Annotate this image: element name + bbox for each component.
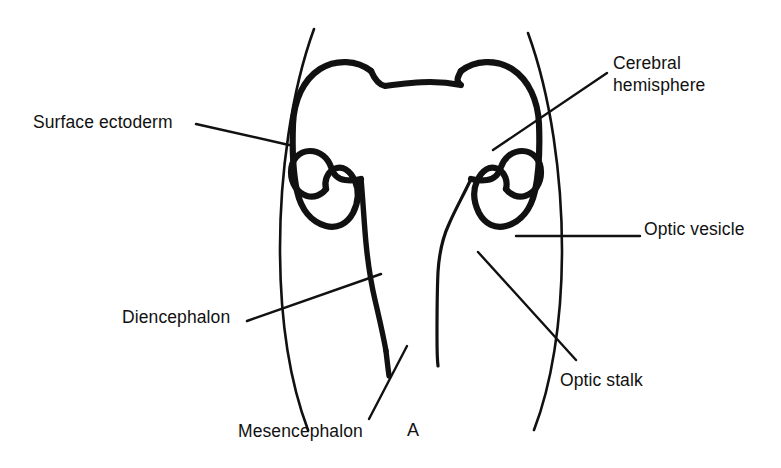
diencephalon-right-wall	[437, 179, 471, 366]
label-mesencephalon: Mesencephalon	[238, 420, 363, 442]
mesencephalon-left-wall	[386, 351, 389, 376]
leader-surface-ectoderm	[196, 124, 289, 145]
diencephalon-left-wall	[361, 179, 386, 351]
label-diencephalon: Diencephalon	[122, 306, 230, 328]
label-surface-ectoderm: Surface ectoderm	[33, 111, 173, 133]
label-cerebral-hemisphere-line2: hemisphere	[613, 75, 705, 95]
embryonic-brain-figure: Surface ectoderm Cerebralhemisphere Opti…	[0, 0, 781, 468]
label-optic-vesicle: Optic vesicle	[644, 218, 745, 240]
surface-ectoderm-left-arc	[280, 29, 314, 430]
leader-diencephalon	[247, 274, 381, 321]
label-cerebral-hemisphere: Cerebralhemisphere	[613, 52, 743, 96]
leader-cerebral-hemisphere	[493, 73, 607, 150]
label-cerebral-hemisphere-line1: Cerebral	[613, 53, 681, 73]
label-optic-stalk: Optic stalk	[560, 369, 643, 391]
left-cerebral-hemisphere-outline	[293, 62, 371, 227]
forebrain-roof-outline	[371, 71, 461, 86]
panel-letter: A	[407, 420, 419, 441]
